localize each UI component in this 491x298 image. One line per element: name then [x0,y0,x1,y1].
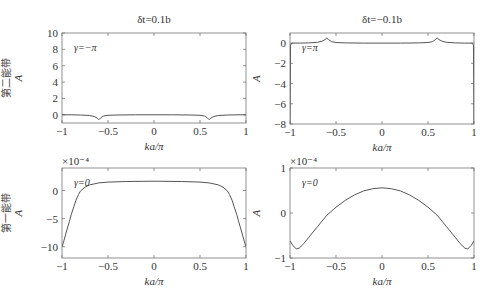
x-tick-label: −0.5 [98,125,118,137]
x-tick-label: 1 [243,260,249,272]
y-tick-label: 10 [47,27,59,39]
y-tick-label: −8 [274,118,286,130]
figure-canvas: −1−0.500.510246810δt=0.1bγ=−πka/πA第二能带−1… [0,0,491,298]
x-tick-label: 1 [243,125,249,137]
x-tick-label: 0 [151,125,157,137]
y-tick-label: 0 [281,37,287,49]
x-tick-label: 0 [379,260,385,272]
y-axis-label: A [250,209,262,217]
panel-bottom-right: −1−0.500.51−101×10⁻⁴γ=0ka/πA [250,155,477,287]
y-tick-label: 2 [53,92,59,104]
y-scale-label: ×10⁻⁴ [290,155,317,167]
y-tick-label: −10 [41,241,59,253]
x-tick-label: 0 [151,260,157,272]
x-tick-label: −0.5 [326,126,346,138]
y-axis-label: A [12,74,24,82]
y-tick-label: −4 [274,78,286,90]
x-tick-label: 1 [471,126,477,138]
panel-top-right: −1−0.500.51−8−6−4−20δt=−0.1bγ=πka/πA [250,13,477,153]
gamma-annotation: γ=0 [302,177,318,188]
gamma-annotation: γ=−π [74,42,97,53]
panel-bottom-left: −1−0.500.51−10−50×10⁻⁴γ=0ka/πA第一能带 [0,155,249,287]
y-tick-label: 0 [53,185,59,197]
y-tick-label: −1 [274,252,286,264]
x-axis-label: ka/π [373,275,392,287]
y-tick-label: −2 [274,57,286,69]
x-axis-label: ka/π [373,141,392,153]
x-tick-label: 0 [379,126,385,138]
gamma-annotation: γ=0 [74,177,90,188]
panel-title: δt=−0.1b [362,13,402,25]
x-tick-label: 0.5 [193,125,207,137]
data-curve [62,115,246,120]
x-tick-label: −0.5 [326,260,346,272]
y-tick-label: 4 [53,76,59,88]
gamma-annotation: γ=π [302,42,319,53]
y-axis-label: A [12,209,24,217]
y-tick-label: −6 [274,98,286,110]
x-tick-label: 1 [471,260,477,272]
data-curve [62,181,246,247]
y-scale-label: ×10⁻⁴ [62,155,89,167]
y-tick-label: 0 [281,207,287,219]
y-tick-label: −5 [46,213,58,225]
y-tick-label: 6 [53,60,59,72]
band-row-label: 第二能带 [0,58,12,98]
x-axis-label: ka/π [145,140,164,152]
x-tick-label: −1 [56,260,68,272]
x-axis-label: ka/π [145,275,164,287]
x-tick-label: 0.5 [421,126,435,138]
panel-top-left: −1−0.500.510246810δt=0.1bγ=−πka/πA第二能带 [0,13,249,152]
x-tick-label: 0.5 [193,260,207,272]
y-tick-label: 0 [53,109,59,121]
y-tick-label: 1 [281,162,287,174]
y-tick-label: 8 [53,43,59,55]
y-axis-label: A [250,75,262,83]
x-tick-label: −1 [56,125,68,137]
x-tick-label: −0.5 [98,260,118,272]
data-curve [290,188,474,249]
band-row-label: 第一能带 [0,193,12,233]
panel-title: δt=0.1b [137,13,171,25]
x-tick-label: 0.5 [421,260,435,272]
